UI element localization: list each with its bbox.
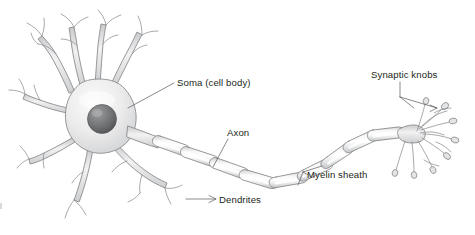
synaptic-knob bbox=[391, 141, 405, 177]
neuron-illustration: Soma (cell body) Axon Myelin sheath Dend… bbox=[0, 0, 475, 235]
synaptic-knob bbox=[422, 138, 452, 161]
label-soma: Soma (cell body) bbox=[128, 77, 251, 108]
dendrite-branch bbox=[65, 147, 93, 218]
dendrite-branch bbox=[27, 18, 74, 93]
synaptic-knob bbox=[421, 117, 457, 130]
dendrite-branch bbox=[110, 16, 158, 88]
label-myelin-text: Myelin sheath bbox=[307, 169, 368, 180]
label-myelin: Myelin sheath bbox=[298, 166, 368, 185]
edge-artifact bbox=[0, 203, 2, 209]
label-synaptic-knobs: Synaptic knobs bbox=[371, 69, 438, 112]
neuron-diagram-canvas: Soma (cell body) Axon Myelin sheath Dend… bbox=[0, 0, 475, 235]
leader-line-synaptic-knobs bbox=[400, 82, 437, 108]
soma bbox=[65, 79, 136, 153]
nucleus bbox=[88, 105, 117, 134]
label-axon-text: Axon bbox=[227, 127, 249, 138]
label-dendrites: Dendrites bbox=[186, 194, 261, 205]
dendrite-branch bbox=[17, 138, 75, 168]
synaptic-knob bbox=[411, 142, 418, 179]
label-dendrites-text: Dendrites bbox=[219, 194, 261, 205]
label-soma-text: Soma (cell body) bbox=[177, 77, 251, 88]
label-synaptic-knobs-text: Synaptic knobs bbox=[371, 69, 438, 80]
dendrite-branch bbox=[112, 144, 182, 204]
dendrite-branch bbox=[9, 79, 68, 113]
synaptic-terminal-group bbox=[391, 97, 459, 179]
leader-line-soma bbox=[128, 83, 174, 108]
